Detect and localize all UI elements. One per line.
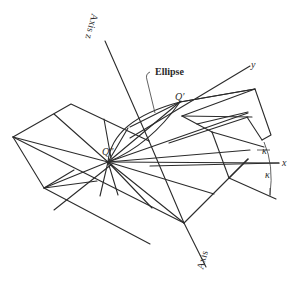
kappa-dimension: κ κ: [257, 142, 271, 196]
axis-z-label: Axis z: [83, 12, 100, 40]
x-axis-label: x: [281, 157, 287, 168]
q-double-prime-label: Q″: [102, 146, 114, 157]
geometry-diagram: Axis z Axis: [0, 0, 298, 300]
axis-z: Axis z: [83, 12, 149, 141]
y-axis: y: [130, 59, 256, 138]
axis-bottom-label: Axis: [194, 249, 210, 270]
x-axis: x: [108, 157, 287, 168]
kappa-upper-label: κ: [262, 145, 267, 156]
axis-bottom: Axis: [184, 223, 210, 271]
ellipse-curve: Ellipse: [108, 66, 184, 162]
kappa-lower-label: κ: [265, 169, 270, 180]
q-prime-label: Q′: [175, 91, 185, 102]
left-plane: [13, 104, 184, 244]
ellipse-label: Ellipse: [155, 66, 184, 77]
y-axis-label: y: [250, 59, 256, 70]
right-plane: [130, 89, 276, 223]
